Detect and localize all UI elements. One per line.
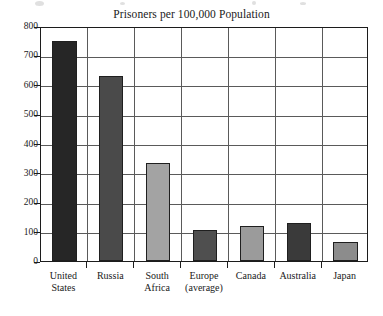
x-axis-category-label-line1: Japan (333, 270, 356, 281)
x-axis-tick-mark (321, 262, 322, 268)
gridline-vertical (134, 28, 135, 261)
x-axis-category-label-line1: Australia (279, 270, 316, 281)
y-axis-tick-label: 600 (0, 81, 38, 91)
bar (146, 163, 170, 261)
scan-artifact (0, 0, 383, 7)
gridline-horizontal (41, 145, 367, 146)
y-axis-tick-label: 700 (0, 51, 38, 61)
bar (333, 242, 357, 261)
x-axis-category-label: UnitedStates (40, 270, 87, 294)
plot-area (40, 27, 368, 262)
x-axis-category-label: Russia (87, 270, 134, 282)
x-axis-category-label-line1: Russia (97, 270, 124, 281)
y-axis-tick-label: 500 (0, 110, 38, 120)
gridline-horizontal (41, 86, 367, 87)
x-axis-category-label-line1: Canada (236, 270, 266, 281)
gridline-vertical (228, 28, 229, 261)
bar (193, 230, 217, 261)
bar (287, 223, 311, 261)
y-axis-tick-label: 300 (0, 169, 38, 179)
chart-title: Prisoners per 100,000 Population (0, 8, 383, 20)
x-axis-tick-mark (86, 262, 87, 268)
x-axis-category-label-line2: Africa (134, 282, 181, 294)
x-axis-category-label-line2: (average) (181, 282, 228, 294)
x-axis-category-label: SouthAfrica (134, 270, 181, 294)
bar-chart-figure: Prisoners per 100,000 Population 0100200… (0, 0, 383, 316)
gridline-horizontal (41, 204, 367, 205)
x-axis-category-label-line2: States (40, 282, 87, 294)
bar (240, 226, 264, 261)
x-axis-category-label-line1: United (50, 270, 77, 281)
gridline-horizontal (41, 116, 367, 117)
y-axis-tick-label: 0 (0, 257, 38, 267)
x-axis-category-label: Europe(average) (181, 270, 228, 294)
gridline-horizontal (41, 174, 367, 175)
x-axis-category-label: Japan (321, 270, 368, 282)
y-axis-tick-label: 200 (0, 198, 38, 208)
gridline-vertical (275, 28, 276, 261)
bar (99, 76, 123, 261)
y-axis-tick-label: 400 (0, 140, 38, 150)
gridline-vertical (322, 28, 323, 261)
gridline-horizontal (41, 57, 367, 58)
x-axis-category-label-line1: Europe (190, 270, 219, 281)
x-axis-tick-mark (274, 262, 275, 268)
x-axis-tick-mark (180, 262, 181, 268)
y-axis-tick-label: 100 (0, 228, 38, 238)
x-axis-tick-mark (133, 262, 134, 268)
gridline-vertical (87, 28, 88, 261)
x-axis-category-label: Australia (274, 270, 321, 282)
y-axis-tick-label: 800 (0, 22, 38, 32)
gridline-vertical (181, 28, 182, 261)
x-axis-category-label: Canada (227, 270, 274, 282)
x-axis-tick-mark (227, 262, 228, 268)
x-axis-category-label-line1: South (145, 270, 168, 281)
bar (52, 41, 76, 261)
